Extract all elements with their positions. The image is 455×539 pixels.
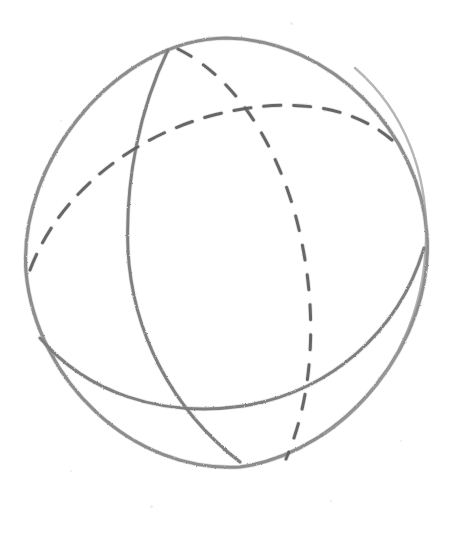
- equator-back-dashed: [30, 105, 392, 270]
- sphere-outline-overdraw: [325, 68, 426, 434]
- equator-front-group: [40, 248, 424, 409]
- sphere-outline-circle-shadow: [26, 38, 428, 467]
- sphere-sketch-figure: [0, 0, 455, 539]
- sketch-canvas: [0, 0, 455, 539]
- sphere-outline-group: [26, 38, 428, 467]
- equator-front-solid: [40, 248, 424, 409]
- equator-back-group: [30, 105, 392, 270]
